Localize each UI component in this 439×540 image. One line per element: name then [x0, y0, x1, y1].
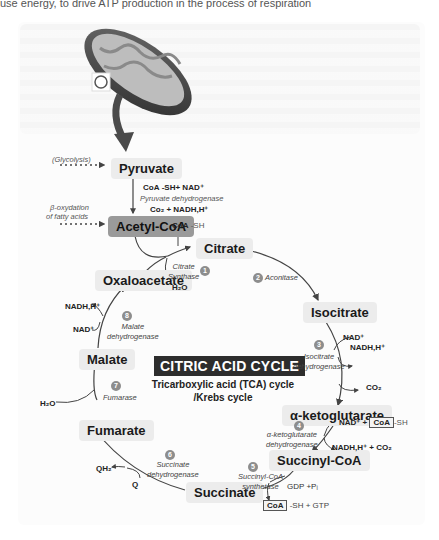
enzyme-succinyl-coa-synthetase: Succinyl-CoAsynthetase [238, 472, 283, 492]
enzyme-akg-dehydrogenase: α-ketoglutaratedehydrogenase [266, 430, 318, 450]
nadh-step-3: NADH,H⁺ [350, 343, 385, 352]
step-4-inputs: NAD⁺ + CoA-SH [339, 418, 408, 427]
h2o-step-7: H₂O [40, 399, 56, 408]
nadh-step-8: NADH,H⁺ [65, 302, 100, 311]
enzyme-isocitrate-dehydrogenase: Isocitratedehydrogenase [293, 352, 345, 372]
step-number-7: 7 [111, 381, 121, 391]
enzyme-aconitase: Aconitase [265, 273, 298, 283]
node-malate: Malate [79, 349, 135, 370]
step-number-3: 3 [314, 340, 324, 350]
node-pyruvate: Pyruvate [111, 158, 182, 179]
cycle-title: CITRIC ACID CYCLE [154, 356, 305, 376]
node-succinyl-coa: Succinyl-CoA [269, 450, 370, 471]
node-isocitrate: Isocitrate [303, 302, 377, 323]
step-number-8: 8 [122, 311, 132, 321]
enzyme-succinate-dehydrogenase: Succinatedehydrogenase [147, 460, 199, 480]
step-number-5: 5 [248, 462, 258, 472]
mitochondrion-icon [70, 12, 206, 152]
qh2-label: QH₂ [96, 464, 112, 473]
coa-sh-label: CoA -SH [172, 221, 204, 230]
step-4-outputs: NADH,H⁺ + CO₂ [332, 443, 392, 452]
coa-sh-gtp-label: CoA -SH + GTP [263, 501, 329, 510]
step-number-2: 2 [253, 273, 263, 283]
node-citrate: Citrate [196, 238, 253, 259]
beta-oxidation-label-2: of fatty acids [46, 212, 88, 221]
h2o-step-1: H₂O [172, 283, 188, 292]
pdh-inputs: CoA -SH+ NAD⁺ [143, 183, 204, 192]
node-fumarate: Fumarate [79, 420, 154, 441]
beta-oxidation-label-1: β-oxydation [50, 203, 89, 212]
enzyme-fumarase: Fumarase [103, 393, 137, 403]
diagram-arrows [0, 0, 439, 540]
pdh-outputs: Co₂ + NADH,H⁺ [150, 205, 208, 214]
enzyme-malate-dehydrogenase: Malatedehydrogenase [107, 322, 159, 342]
nad-step-3: NAD⁺ [343, 333, 364, 342]
q-label: Q [132, 480, 138, 489]
glycolysis-label: (Glycolysis) [52, 155, 91, 164]
pdh-enzyme: Pyruvate dehydrogenase [140, 194, 223, 203]
cycle-subtitle: Tricarboxylic acid (TCA) cycle/Krebs cyc… [148, 378, 298, 404]
step-number-6: 6 [165, 450, 175, 460]
gdp-pi-label: GDP +Pᵢ [287, 482, 318, 491]
step-number-1: 1 [200, 266, 210, 276]
nad-step-8: NAD⁺ [73, 325, 94, 334]
co2-step-3: CO₂ [366, 383, 382, 392]
enzyme-citrate-synthase: CitrateSynthase [168, 262, 199, 282]
